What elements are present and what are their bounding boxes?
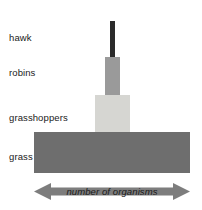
level-label-grass: grass [9, 152, 33, 162]
axis-label-number-of-organisms: number of organisms [34, 181, 190, 202]
pyramid-bar-grasshoppers [95, 95, 130, 132]
level-label-robins: robins [9, 68, 35, 78]
ecological-pyramid-diagram: hawk robins grasshoppers grass number of… [0, 0, 202, 210]
pyramid-bar-grass [34, 132, 190, 173]
number-of-organisms-arrow: number of organisms [34, 181, 190, 202]
level-label-grasshoppers: grasshoppers [9, 113, 68, 123]
pyramid-bar-robins [105, 57, 120, 95]
level-label-hawk: hawk [9, 33, 32, 43]
pyramid-bar-hawk [110, 21, 115, 57]
